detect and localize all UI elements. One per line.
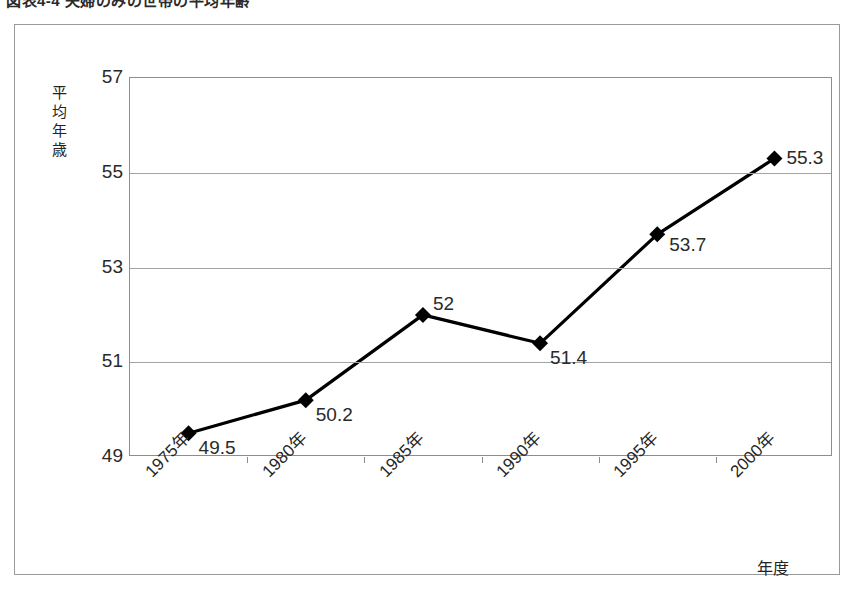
gridline — [130, 173, 831, 174]
y-axis-tick-label: 55 — [77, 161, 123, 183]
x-axis-title: 年度 — [757, 555, 789, 579]
data-point-label: 53.7 — [669, 234, 706, 256]
data-point-label: 51.4 — [550, 347, 587, 369]
document-title: 図表4-4 夫婦のみの世帯の平均年齢 — [6, 0, 251, 10]
y-axis-title-char: 歳 — [49, 140, 69, 159]
data-point-label: 55.3 — [786, 147, 823, 169]
y-axis-title-char: 年 — [49, 121, 69, 140]
y-axis-tick-labels: 5755535149 — [73, 77, 123, 456]
data-point-label: 52 — [433, 293, 454, 315]
data-point-marker — [766, 151, 782, 167]
y-axis-title-char: 平 — [49, 83, 69, 102]
y-axis-title-char: 均 — [49, 102, 69, 121]
y-axis-tick-label: 53 — [77, 256, 123, 278]
gridline — [130, 268, 831, 269]
y-axis-tick-label: 49 — [77, 445, 123, 467]
figure-frame: 平均年歳 5755535149 49.550.25251.453.755.3 1… — [14, 24, 840, 575]
x-axis-tick-mark — [599, 457, 600, 463]
document-title-strip: 図表4-4 夫婦のみの世帯の平均年齢 — [0, 0, 854, 13]
y-axis-tick-label: 51 — [77, 350, 123, 372]
data-point-label: 49.5 — [199, 437, 236, 459]
y-axis-title: 平均年歳 — [49, 83, 69, 159]
x-axis-tick-mark — [716, 457, 717, 463]
x-axis-tick-mark — [364, 457, 365, 463]
x-axis-tick-labels: 1975年1980年1985年1990年1995年2000年 — [129, 464, 832, 544]
y-axis-tick-label: 57 — [77, 66, 123, 88]
x-axis-tick-mark — [247, 457, 248, 463]
data-point-label: 50.2 — [316, 404, 353, 426]
plot-area: 49.550.25251.453.755.3 — [129, 77, 832, 456]
gridline — [130, 362, 831, 363]
series-line — [189, 159, 775, 434]
x-axis-tick-mark — [482, 457, 483, 463]
